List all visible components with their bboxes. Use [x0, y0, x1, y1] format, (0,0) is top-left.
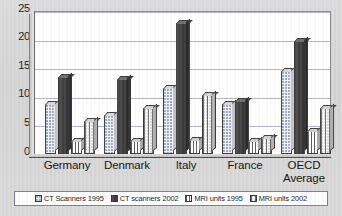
bar-top-face	[261, 135, 278, 139]
bar-top-face	[58, 74, 75, 78]
chart-legend: CT Scanners 1995 CT scanners 2002 MRI un…	[14, 191, 328, 206]
legend-label: CT Scanners 1995	[44, 195, 104, 203]
bar-oecd-ct-2002	[294, 41, 305, 154]
y-tick-label: 0	[8, 146, 30, 157]
bar-germany-ct-2002	[58, 77, 69, 154]
bar-side-face	[330, 104, 334, 151]
bar-france-ct-2002	[235, 101, 246, 154]
bar-group-germany	[43, 12, 99, 154]
x-tick-label-line2: Average	[271, 172, 337, 185]
x-tick-label-oecd-average: OECD Average	[271, 159, 337, 185]
legend-label: MRI units 1995	[194, 195, 242, 203]
bar-germany-ct-1995	[45, 104, 56, 154]
bar-italy-ct-2002	[176, 23, 187, 154]
legend-swatch-icon	[111, 195, 118, 202]
bar-italy-ct-1995	[163, 88, 174, 154]
bar-germany-mri-1995	[71, 141, 82, 154]
legend-entry-ct-scanners-1995: CT Scanners 1995	[35, 195, 104, 203]
scanned-page-background: 25 20 15 10 5 0	[0, 0, 342, 216]
legend-swatch-icon	[185, 195, 192, 202]
bar-group-oecd-average	[279, 12, 335, 154]
y-tick-label: 20	[8, 31, 30, 42]
legend-entry-mri-units-2002: MRI units 2002	[250, 195, 307, 203]
bar-italy-mri-1995	[189, 140, 200, 154]
bar-side-face	[68, 72, 72, 151]
bar-denmark-ct-1995	[104, 115, 115, 155]
bar-side-face	[153, 103, 157, 151]
bar-side-face	[271, 134, 275, 151]
y-tick-label: 15	[8, 60, 30, 71]
legend-label: CT scanners 2002	[120, 195, 179, 203]
bar-top-face	[84, 118, 101, 122]
bars-layer	[35, 12, 330, 154]
bar-oecd-ct-1995	[281, 71, 292, 154]
bar-denmark-mri-2002	[143, 108, 154, 154]
bar-side-face	[94, 117, 98, 151]
bar-group-italy	[161, 12, 217, 154]
x-tick-label-france: France	[212, 159, 278, 172]
plot-area	[34, 11, 331, 154]
bar-oecd-mri-2002	[320, 108, 331, 154]
legend-entry-mri-units-1995: MRI units 1995	[185, 195, 242, 203]
bar-germany-mri-2002	[84, 121, 95, 154]
legend-entry-ct-scanners-2002: CT scanners 2002	[111, 195, 179, 203]
bar-group-france	[220, 12, 276, 154]
legend-swatch-icon	[250, 195, 257, 202]
bar-top-face	[294, 38, 311, 42]
bar-france-mri-2002	[261, 138, 272, 154]
x-tick-label-denmark: Denmark	[94, 159, 160, 172]
y-tick-label: 5	[8, 117, 30, 128]
bar-top-face	[235, 98, 252, 102]
legend-label: MRI units 2002	[259, 195, 307, 203]
bar-oecd-mri-1995	[307, 131, 318, 154]
bar-side-face	[186, 19, 190, 151]
bar-france-mri-1995	[248, 141, 259, 154]
bar-italy-mri-2002	[202, 95, 213, 154]
x-axis: Germany Denmark Italy France OECD Averag…	[30, 159, 332, 193]
bar-top-face	[117, 76, 134, 80]
y-axis: 25 20 15 10 5 0	[6, 6, 30, 156]
bar-top-face	[320, 105, 337, 109]
bar-top-face	[143, 105, 160, 109]
x-tick-label-germany: Germany	[34, 159, 100, 172]
bar-top-face	[176, 20, 193, 24]
x-tick-label-line1: OECD	[288, 159, 321, 171]
bar-side-face	[212, 91, 216, 151]
legend-swatch-icon	[35, 195, 42, 202]
bar-denmark-mri-1995	[130, 141, 141, 154]
bar-denmark-ct-2002	[117, 79, 128, 155]
bar-france-ct-1995	[222, 104, 233, 154]
bar-group-denmark	[102, 12, 158, 154]
y-tick-label: 25	[8, 3, 30, 14]
y-tick-label: 10	[8, 88, 30, 99]
bar-top-face	[202, 92, 219, 96]
x-tick-label-italy: Italy	[153, 159, 219, 172]
plot-floor	[29, 154, 331, 158]
bar-chart-figure: 25 20 15 10 5 0	[0, 0, 342, 216]
